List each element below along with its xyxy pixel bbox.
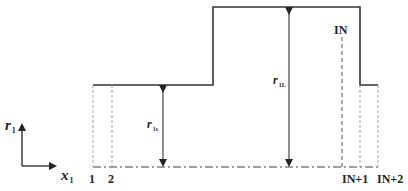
axis-vertical-symbol: r (5, 117, 11, 133)
axis-horizontal-label: x1 (61, 168, 74, 185)
short-radius-label: r1s (147, 118, 158, 132)
long-radius-subscript: 1L (279, 82, 286, 88)
axis-vertical-subscript: 1 (12, 126, 16, 135)
node-label-1: 1 (89, 173, 95, 185)
long-radius-label: r1L (273, 74, 286, 88)
node-label-IN: IN (334, 24, 347, 36)
node-label-2: 2 (108, 173, 114, 185)
axis-horizontal-symbol: x (61, 167, 69, 183)
axis-horizontal-subscript: 1 (70, 176, 74, 185)
node-label-IN1: IN+1 (342, 173, 368, 185)
long-radius-symbol: r (273, 73, 278, 87)
profile-outline (93, 7, 378, 85)
short-radius-subscript: 1s (153, 126, 158, 132)
short-radius-symbol: r (147, 117, 152, 131)
node-label-IN2: IN+2 (377, 173, 403, 185)
axis-vertical-label: r1 (5, 118, 16, 135)
